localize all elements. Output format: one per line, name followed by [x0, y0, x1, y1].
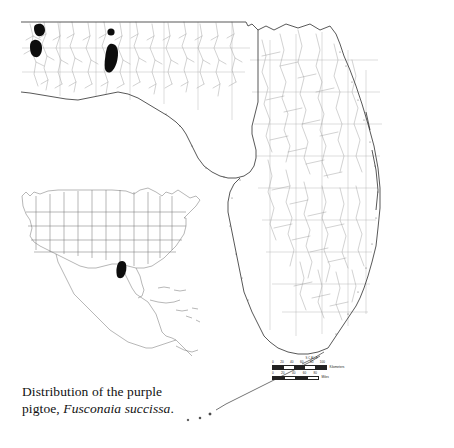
inset-lesser-antilles [186, 316, 200, 322]
caption-line-2: pigtoe, Fusconaia succissa. [22, 401, 232, 418]
north-america-inset [0, 0, 454, 448]
inset-range-patch [116, 261, 126, 278]
caption-period: . [170, 401, 173, 416]
inset-mexico-west [56, 254, 176, 348]
scale-bar-km-bar [272, 365, 327, 369]
scale-bar-miles-unit: Miles [322, 376, 329, 379]
inset-hispaniola [176, 308, 198, 311]
inset-us-coast [22, 196, 186, 268]
inset-florida [136, 268, 144, 298]
inset-bahamas [158, 287, 186, 291]
caption-species-name: Fusconaia succissa [63, 401, 170, 416]
scale-bar-km-unit: Kilometers [330, 366, 345, 369]
inset-central-america [176, 340, 192, 356]
scale-bar-miles-bar [272, 376, 319, 380]
caption-common-name: pigtoe, [22, 401, 63, 416]
distribution-figure: SCALE 0 20 40 60 80 100 Kilometers [0, 0, 454, 448]
inset-state-lines [26, 190, 186, 266]
scale-bar-miles: 0 20 40 60 80 Miles [272, 372, 352, 380]
figure-caption: Distribution of the purple pigtoe, Fusco… [22, 384, 232, 417]
caption-line-1: Distribution of the purple [22, 384, 232, 401]
scale-bar-title: SCALE [272, 356, 352, 360]
inset-cuba [150, 300, 180, 303]
inset-mexico-east [120, 264, 176, 340]
scale-bar: SCALE 0 20 40 60 80 100 Kilometers [272, 356, 352, 382]
inset-canada-border [22, 188, 200, 218]
scale-bar-kilometers: 0 20 40 60 80 100 Kilometers [272, 361, 352, 369]
